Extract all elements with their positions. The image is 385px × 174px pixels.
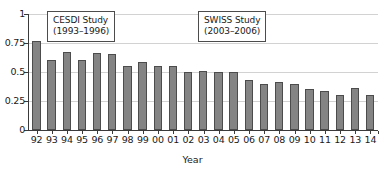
bar [214, 72, 222, 130]
bar [336, 95, 344, 130]
bar [199, 71, 207, 130]
bar [93, 53, 101, 130]
bar-slot [287, 14, 302, 130]
bar [366, 95, 374, 130]
y-tick-label: 0 [0, 125, 25, 135]
bar-slot [363, 14, 378, 130]
bar [245, 80, 253, 130]
bar [275, 82, 283, 130]
bar [169, 66, 177, 130]
annotation-cesdi-line2: (1993–1996) [53, 26, 109, 37]
y-tick-label: 0.75 [0, 38, 25, 48]
bar [32, 41, 40, 130]
x-tick-label: 14 [359, 135, 381, 145]
bar [184, 72, 192, 130]
annotation-swiss-line2: (2003–2006) [204, 26, 260, 37]
x-tick-mark [378, 131, 379, 134]
bar [63, 52, 71, 130]
bar [138, 62, 146, 130]
bar-slot [272, 14, 287, 130]
x-axis-title: Year [0, 155, 385, 165]
bar [290, 84, 298, 130]
bar [320, 91, 328, 130]
y-tick-label: 0.25 [0, 96, 25, 106]
bar-slot [302, 14, 317, 130]
bar [229, 72, 237, 130]
bar [260, 84, 268, 130]
bar-slot [181, 14, 196, 130]
bar [351, 88, 359, 130]
bar-slot [166, 14, 181, 130]
annotation-box-swiss: SWISS Study (2003–2006) [198, 11, 266, 42]
bar-slot [348, 14, 363, 130]
bar [123, 66, 131, 130]
bar [154, 66, 162, 130]
bar-slot [120, 14, 135, 130]
bar-slot [135, 14, 150, 130]
y-tick-label: 1 [0, 9, 25, 19]
bar [108, 54, 116, 130]
bar-slot [150, 14, 165, 130]
bar [47, 60, 55, 130]
bar [305, 89, 313, 130]
bar-slot [332, 14, 347, 130]
annotation-swiss-line1: SWISS Study [204, 15, 260, 26]
bar-slot [29, 14, 44, 130]
bar [78, 60, 86, 130]
annotation-box-cesdi: CESDI Study (1993–1996) [47, 11, 115, 42]
annotation-cesdi-line1: CESDI Study [53, 15, 109, 26]
y-tick-label: 0.5 [0, 67, 25, 77]
bar-slot [317, 14, 332, 130]
bar-chart-figure: 00.250.50.751 92939495969798990001020304… [0, 0, 385, 174]
